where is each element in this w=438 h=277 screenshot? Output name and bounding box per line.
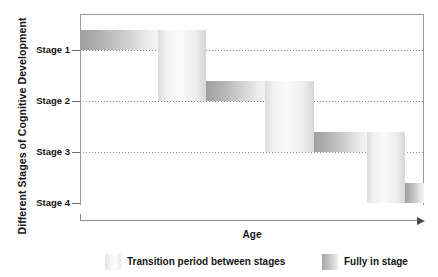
y-label-stage-3-wrap: Stage 3 (0, 147, 70, 157)
gridline-stage-1 (80, 50, 424, 51)
legend-swatch-fully-in-stage-icon (322, 254, 338, 270)
y-label-stage-4: Stage 4 (8, 198, 70, 208)
y-label-stage-4-wrap: Stage 4 (0, 198, 70, 208)
y-axis-title: Different Stages of Cognitive Developmen… (14, 8, 30, 244)
y-label-stage-3: Stage 3 (8, 147, 70, 157)
x-axis-title: Age (80, 229, 424, 240)
bar-transition-stage-2-to-3 (265, 81, 314, 152)
bar-fully-in-stage-2 (206, 81, 265, 101)
bar-fully-in-stage-4 (405, 183, 424, 203)
y-label-stage-2: Stage 2 (8, 96, 70, 106)
y-label-stage-1: Stage 1 (8, 45, 70, 55)
chart-legend: Transition period between stages Fully i… (0, 254, 438, 274)
y-tick-stage-3 (72, 152, 80, 153)
bar-fully-in-stage-1 (80, 30, 158, 50)
y-label-stage-1-wrap: Stage 1 (0, 45, 70, 55)
y-tick-stage-1 (72, 50, 80, 51)
bar-fully-in-stage-3 (314, 132, 367, 152)
x-axis-line (80, 220, 419, 221)
y-label-stage-2-wrap: Stage 2 (0, 96, 70, 106)
legend-swatch-transition-icon (105, 254, 121, 270)
cognitive-development-stage-chart: Different Stages of Cognitive Developmen… (0, 0, 438, 277)
gridline-stage-2 (80, 101, 424, 102)
bar-transition-stage-3-to-4 (367, 132, 405, 203)
cropped-caption-sliver (46, 0, 226, 4)
bar-transition-stage-1-to-2 (158, 30, 206, 101)
legend-label-transition: Transition period between stages (127, 256, 285, 268)
arrow-right-icon (417, 217, 425, 225)
y-tick-stage-4 (72, 203, 80, 204)
y-tick-stage-2 (72, 101, 80, 102)
legend-label-fully-in-stage: Fully in stage (344, 256, 408, 268)
